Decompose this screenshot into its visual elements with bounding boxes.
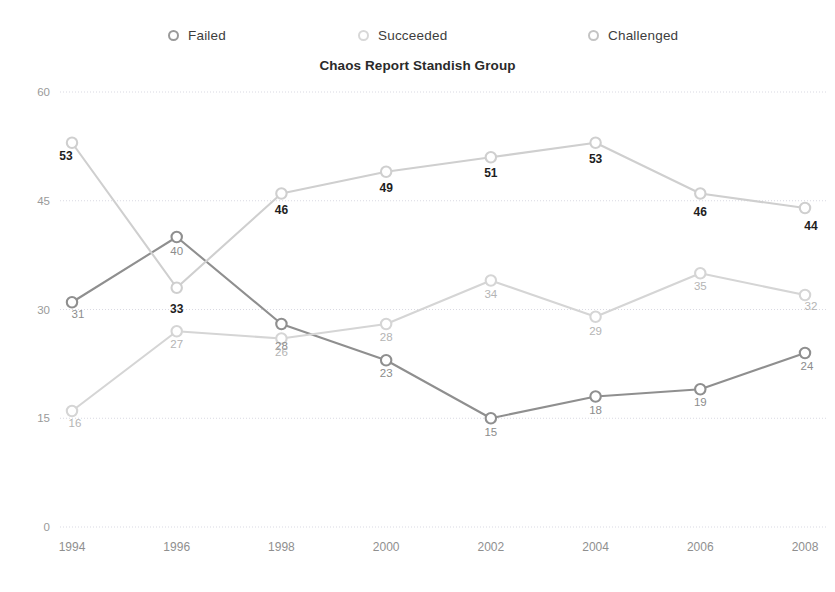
- data-point-label: 40: [170, 245, 183, 257]
- data-point-label: 15: [484, 426, 497, 438]
- data-point-label: 51: [484, 166, 498, 180]
- data-point-marker[interactable]: [276, 188, 286, 198]
- data-point-marker[interactable]: [695, 268, 705, 278]
- data-point-marker[interactable]: [276, 319, 286, 329]
- data-point-label: 16: [69, 417, 82, 429]
- data-point-label: 44: [804, 219, 818, 233]
- data-point-marker[interactable]: [381, 319, 391, 329]
- data-point-label: 53: [589, 152, 603, 166]
- data-point-marker[interactable]: [590, 138, 600, 148]
- data-point-label: 27: [170, 338, 183, 350]
- data-point-marker[interactable]: [486, 413, 496, 423]
- data-point-label: 19: [694, 396, 707, 408]
- data-point-label: 23: [380, 367, 393, 379]
- data-point-marker[interactable]: [800, 348, 810, 358]
- data-point-label: 26: [275, 346, 288, 358]
- y-tick-label: 45: [37, 195, 50, 207]
- x-tick-label: 1994: [59, 540, 86, 554]
- data-point-marker[interactable]: [800, 203, 810, 213]
- x-tick-label: 1998: [268, 540, 295, 554]
- data-point-label: 46: [694, 205, 708, 219]
- data-point-label: 31: [72, 308, 85, 320]
- data-point-marker[interactable]: [172, 283, 182, 293]
- x-tick-label: 2006: [687, 540, 714, 554]
- y-tick-label: 15: [37, 412, 50, 424]
- data-point-label: 35: [694, 280, 707, 292]
- x-tick-label: 2008: [792, 540, 819, 554]
- data-point-label: 28: [380, 331, 393, 343]
- chaos-report-chart: Failed Succeeded Challenged Chaos Report…: [0, 0, 835, 592]
- data-point-marker[interactable]: [590, 312, 600, 322]
- x-tick-label: 2002: [478, 540, 505, 554]
- x-tick-label: 2000: [373, 540, 400, 554]
- y-axis-tick-labels: 015304560: [37, 86, 50, 533]
- data-point-label: 18: [589, 404, 602, 416]
- data-point-label: 24: [801, 360, 814, 372]
- data-point-marker[interactable]: [800, 290, 810, 300]
- x-tick-label: 1996: [163, 540, 190, 554]
- data-point-marker[interactable]: [172, 232, 182, 242]
- data-point-marker[interactable]: [695, 188, 705, 198]
- data-point-marker[interactable]: [172, 326, 182, 336]
- data-point-label: 53: [59, 149, 73, 163]
- data-point-marker[interactable]: [590, 391, 600, 401]
- y-tick-label: 30: [37, 304, 50, 316]
- y-tick-label: 60: [37, 86, 50, 98]
- data-point-label: 32: [805, 300, 818, 312]
- x-axis-tick-labels: 19941996199820002002200420062008: [59, 540, 819, 554]
- y-tick-label: 0: [44, 521, 50, 533]
- plot-area: 015304560 199419961998200020022004200620…: [0, 0, 835, 592]
- data-point-label: 33: [170, 302, 184, 316]
- data-point-marker[interactable]: [67, 297, 77, 307]
- data-point-marker[interactable]: [486, 152, 496, 162]
- data-point-label: 34: [484, 288, 497, 300]
- data-point-label: 46: [275, 203, 289, 217]
- data-point-marker[interactable]: [67, 406, 77, 416]
- data-point-label: 29: [589, 325, 602, 337]
- data-point-marker[interactable]: [381, 355, 391, 365]
- data-point-marker[interactable]: [381, 167, 391, 177]
- data-point-marker[interactable]: [486, 275, 496, 285]
- data-point-marker[interactable]: [695, 384, 705, 394]
- data-point-marker[interactable]: [67, 138, 77, 148]
- x-tick-label: 2004: [582, 540, 609, 554]
- data-point-label: 49: [379, 181, 393, 195]
